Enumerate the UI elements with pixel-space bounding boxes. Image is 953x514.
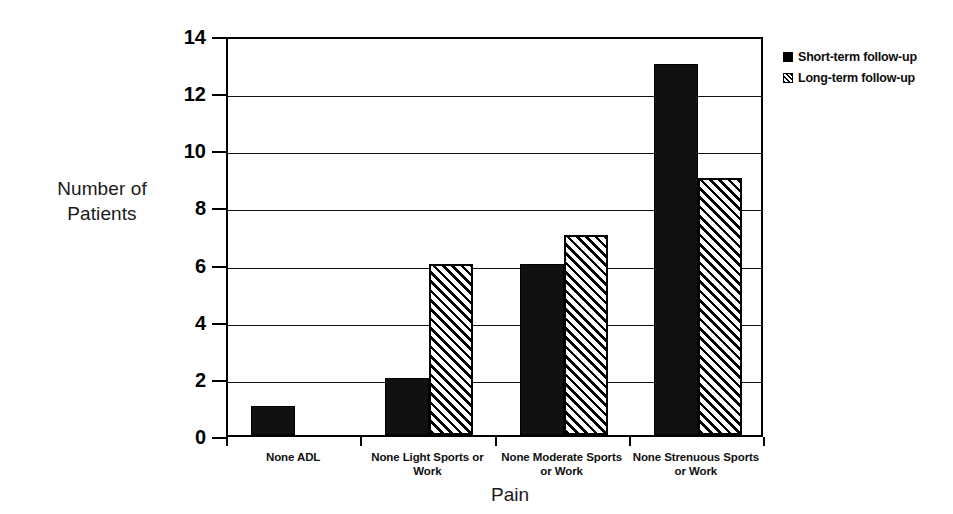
x-category-label: None ADL [226,450,360,464]
legend-label: Long-term follow-up [798,71,915,85]
legend-swatch-hatch-icon [783,73,793,83]
x-category-label: None Moderate Sports or Work [495,450,629,478]
chart-legend: Short-term follow-upLong-term follow-up [783,48,948,90]
y-tick-mark [212,94,226,96]
x-axis-title: Pain [430,484,590,506]
y-tick-label: 12 [168,83,206,106]
x-tick-mark [495,437,497,446]
legend-item: Short-term follow-up [783,48,948,66]
y-tick-mark [212,266,226,268]
x-category-label: None Light Sports or Work [360,450,494,478]
y-tick-mark [212,37,226,39]
legend-item: Long-term follow-up [783,69,948,87]
y-axis-title-line-1: Number of [18,176,186,201]
x-tick-mark [629,437,631,446]
x-tick-mark [226,437,228,446]
y-tick-mark [212,437,226,439]
x-tick-mark [360,437,362,446]
bar [520,264,564,435]
bar [385,378,429,435]
plot-area [226,37,763,437]
bar [698,178,742,435]
x-tick-mark [763,437,765,446]
bar [251,406,295,435]
x-category-label: None Strenuous Sports or Work [629,450,763,478]
y-tick-mark [212,323,226,325]
y-tick-mark [212,208,226,210]
y-tick-label: 0 [168,426,206,449]
y-tick-label: 4 [168,311,206,334]
y-axis-title-line-2: Patients [18,201,186,226]
y-tick-label: 2 [168,368,206,391]
y-tick-mark [212,151,226,153]
y-tick-label: 6 [168,254,206,277]
bar [654,64,698,435]
bar [429,264,473,435]
y-tick-label: 10 [168,140,206,163]
y-tick-label: 14 [168,26,206,49]
y-tick-label: 8 [168,197,206,220]
legend-swatch-solid-icon [783,52,793,62]
bar-chart: Number of Patients 02468101214 None ADLN… [0,0,953,514]
legend-label: Short-term follow-up [798,50,917,64]
bar [564,235,608,435]
y-axis-title: Number of Patients [18,176,186,226]
y-tick-mark [212,380,226,382]
